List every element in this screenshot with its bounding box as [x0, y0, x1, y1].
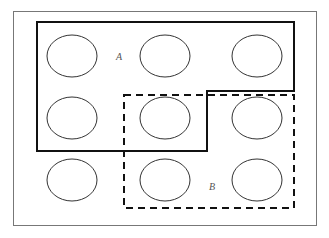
ellipse-r2-c2 — [140, 97, 190, 139]
region-b-label: B — [209, 181, 215, 192]
region-labels: AB — [115, 51, 215, 192]
region-diagram: AB — [0, 0, 329, 238]
region-a-outline — [37, 22, 294, 151]
ellipse-r1-c2 — [140, 35, 190, 77]
ellipse-r3-c3 — [232, 159, 282, 201]
ellipse-grid — [47, 35, 282, 201]
ellipse-r1-c3 — [232, 35, 282, 77]
outer-frame — [14, 12, 317, 226]
ellipse-r2-c1 — [47, 97, 97, 139]
region-outlines — [37, 22, 294, 208]
ellipse-r1-c1 — [47, 35, 97, 77]
region-a-label: A — [115, 51, 123, 62]
ellipse-r3-c1 — [47, 159, 97, 201]
ellipse-r2-c3 — [232, 97, 282, 139]
ellipse-r3-c2 — [140, 159, 190, 201]
